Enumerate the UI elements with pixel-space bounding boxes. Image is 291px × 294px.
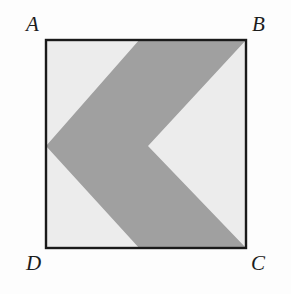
geometry-figure: A B C D xyxy=(0,0,291,294)
vertex-label-a: A xyxy=(26,14,39,35)
square-diagram-svg xyxy=(0,0,291,294)
vertex-label-b: B xyxy=(252,14,265,35)
vertex-label-d: D xyxy=(26,253,41,274)
vertex-label-c: C xyxy=(251,253,265,274)
